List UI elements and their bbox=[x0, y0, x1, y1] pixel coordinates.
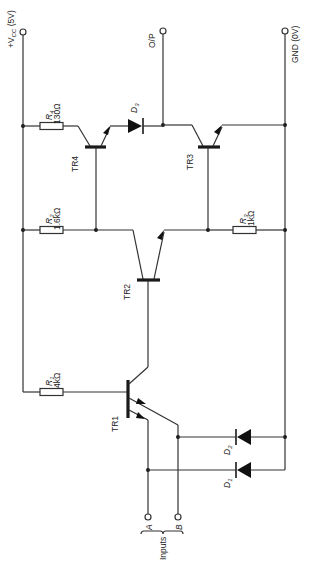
transistor-tr2 bbox=[96, 228, 210, 367]
input-b-label: B bbox=[174, 524, 184, 530]
vcc-rail bbox=[20, 29, 26, 392]
input-b-terminal[interactable] bbox=[175, 514, 181, 520]
tr2-label: TR2 bbox=[122, 284, 132, 300]
transistor-tr1 bbox=[128, 367, 178, 514]
input-a-label: A bbox=[144, 524, 154, 531]
vcc-terminal[interactable] bbox=[20, 29, 26, 35]
diode-d1 bbox=[146, 462, 285, 478]
resistor-r3 bbox=[208, 227, 285, 234]
vcc-label: +VCC (5V) bbox=[6, 10, 17, 48]
gnd-terminal[interactable] bbox=[282, 28, 288, 34]
svg-text:D2: D2 bbox=[222, 445, 233, 455]
gnd-rail bbox=[282, 28, 288, 470]
circuit-diagram: +VCC (5V) O/P GND (0V) R4 130Ω TR4 bbox=[0, 0, 312, 568]
r1-label: R1 4kΩ bbox=[44, 373, 62, 388]
diode-d2 bbox=[176, 429, 285, 445]
d3-label: D3 bbox=[129, 103, 140, 113]
svg-text:+VCC (5V): +VCC (5V) bbox=[6, 10, 17, 48]
resistor-r4 bbox=[23, 123, 78, 130]
transistor-tr4 bbox=[78, 126, 128, 230]
svg-text:130Ω: 130Ω bbox=[52, 103, 62, 124]
r3-label: R3 1kΩ bbox=[238, 211, 256, 226]
svg-text:D3: D3 bbox=[129, 103, 140, 113]
svg-text:4kΩ: 4kΩ bbox=[52, 373, 62, 388]
input-a-terminal[interactable] bbox=[145, 514, 151, 520]
tr4-label: TR4 bbox=[70, 156, 80, 172]
output-terminal[interactable] bbox=[160, 28, 166, 34]
svg-text:1kΩ: 1kΩ bbox=[246, 211, 256, 226]
output-label: O/P bbox=[147, 33, 157, 48]
inputs-label: Inputs bbox=[158, 537, 168, 560]
r4-label: R4 130Ω bbox=[44, 103, 62, 124]
d1-label: D1 bbox=[222, 479, 233, 488]
svg-text:1.6kΩ: 1.6kΩ bbox=[52, 208, 62, 230]
resistor-r1 bbox=[23, 389, 127, 396]
diode-d3 bbox=[128, 118, 163, 134]
inputs-brace bbox=[141, 531, 183, 534]
svg-text:D1: D1 bbox=[222, 479, 233, 488]
output-line bbox=[160, 28, 166, 127]
transistor-tr3 bbox=[163, 125, 285, 230]
tr3-label: TR3 bbox=[185, 154, 195, 170]
tr1-label: TR1 bbox=[110, 416, 120, 432]
d2-label: D2 bbox=[222, 445, 233, 455]
gnd-label: GND (0V) bbox=[290, 26, 300, 63]
